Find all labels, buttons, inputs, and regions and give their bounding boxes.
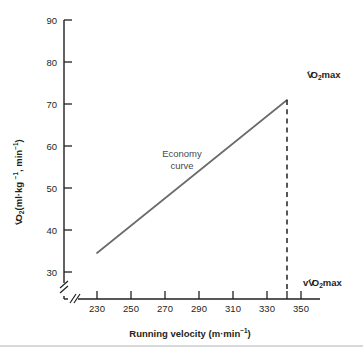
x-axis-title-group: Running velocity (m·min−1) [129,327,250,339]
x-tick-label-310: 310 [225,303,241,314]
y-tick-label-70: 70 [46,99,57,110]
x-tick-label-270: 270 [157,303,173,314]
x-tick-label-230: 230 [89,303,105,314]
y-axis-unit-mid: , min [13,150,24,172]
y-axis-unit-close: ) [13,139,24,142]
x-tick-label-350: 350 [293,303,309,314]
x-tick-label-290: 290 [191,303,207,314]
y-tick-label-80: 80 [46,57,57,68]
vvo2max-text: vV·O2max [303,276,343,290]
y-tick-label-50: 50 [46,183,57,194]
vvo2max-max-text: max [323,277,343,288]
x-axis-title-close: ) [247,328,250,339]
vo2max-text: V·O2max [307,68,341,82]
vvo2max-annotation: vV·O2max [303,276,343,290]
economy-curve-label-line1: Economy [162,148,202,159]
y-axis-unit-open: (ml·kg [13,179,24,210]
x-tick-label-330: 330 [259,303,275,314]
vo2max-o-char: O [310,69,317,80]
chart-background [0,0,363,355]
y-tick-label-60: 60 [46,141,57,152]
x-tick-label-250: 250 [123,303,139,314]
x-axis-title: Running velocity (m·min−1) [129,327,250,339]
y-tick-label-40: 40 [46,225,57,236]
y-tick-label-30: 30 [46,267,57,278]
x-axis-title-main: Running velocity (m·min [129,328,240,339]
economy-curve-figure: 90 80 70 60 50 40 30 [0,0,363,355]
y-axis-o-char: O [13,214,24,221]
vvo2max-o-char: O [312,277,319,288]
y-tick-label-90: 90 [46,15,57,26]
economy-curve-label-line2: curve [170,160,193,171]
vo2max-max-text: max [322,69,342,80]
vo2max-annotation: V·O2max [307,68,341,82]
chart-svg: 90 80 70 60 50 40 30 [0,0,363,355]
